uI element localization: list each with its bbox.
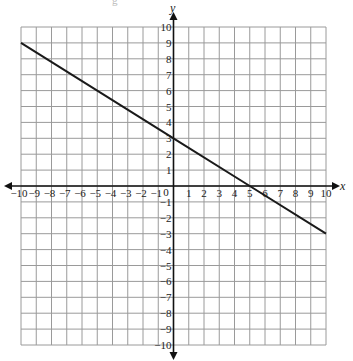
y-tick-label: 9: [166, 37, 172, 49]
y-tick-label: 8: [166, 53, 172, 65]
y-tick-label: 2: [166, 148, 172, 160]
x-tick-label: 7: [278, 187, 284, 199]
x-tick-label: −3: [120, 187, 132, 199]
x-tick-label: 3: [217, 187, 223, 199]
x-tick-label: 5: [247, 187, 253, 199]
y-tick-label: −2: [160, 212, 172, 224]
x-tick-label: 2: [201, 187, 207, 199]
coordinate-plane: g −10−9−8−7−6−5−4−3−2−112345678910 −10−9…: [0, 0, 353, 361]
y-tick-label: 1: [166, 164, 172, 176]
y-tick-label: −7: [160, 291, 172, 303]
x-axis-label: x: [339, 179, 346, 193]
x-tick-label: 8: [293, 187, 299, 199]
x-tick-label: −2: [135, 187, 147, 199]
y-tick-label: −4: [160, 244, 172, 256]
x-tick-label: 9: [308, 187, 314, 199]
x-tick-label: −10: [10, 187, 28, 199]
y-tick-label: −9: [160, 323, 172, 335]
x-tick-label: −5: [89, 187, 101, 199]
caption-fragment: g: [112, 0, 118, 6]
y-axis-arrow-down-icon: [170, 352, 178, 360]
y-tick-label: 5: [166, 101, 172, 113]
x-tick-label: −9: [28, 187, 40, 199]
x-tick-label: 4: [232, 187, 238, 199]
origin-label: 0: [163, 186, 169, 198]
y-tick-label: 7: [166, 69, 172, 81]
y-axis-label: y: [169, 1, 176, 15]
y-tick-label: 6: [166, 85, 172, 97]
y-tick-label: 4: [166, 116, 172, 128]
y-tick-label: −8: [160, 307, 172, 319]
x-tick-label: −8: [44, 187, 56, 199]
y-tick-label: −5: [160, 260, 172, 272]
y-tick-label: −3: [160, 228, 172, 240]
x-tick-label: −6: [74, 187, 86, 199]
y-tick-label: 10: [161, 21, 173, 33]
x-tick-label: 1: [186, 187, 192, 199]
x-tick-label: −7: [59, 187, 71, 199]
x-tick-label: 10: [321, 187, 333, 199]
x-tick-label: −4: [105, 187, 117, 199]
y-tick-label: −6: [160, 275, 172, 287]
y-tick-label: −10: [154, 339, 172, 351]
x-axis-arrow-right-icon: [332, 182, 340, 190]
